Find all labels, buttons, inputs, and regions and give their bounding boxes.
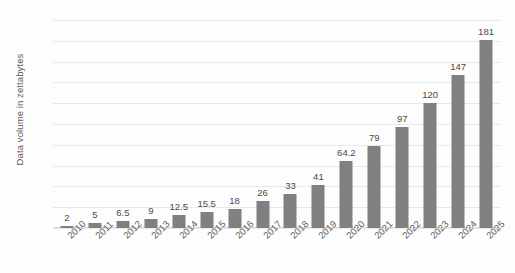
bar-value-label: 18	[229, 195, 240, 206]
y-axis-title: Data volume in zettabytes	[14, 22, 25, 198]
bar[interactable]	[424, 103, 437, 228]
bar-group[interactable]: 1472024	[444, 20, 472, 228]
bar[interactable]	[480, 40, 493, 228]
bar-group[interactable]: 6.52012	[109, 20, 137, 228]
bar[interactable]	[340, 161, 353, 228]
bar-value-label: 15.5	[197, 198, 216, 209]
bar-value-label: 33	[285, 180, 296, 191]
bar-group[interactable]: 182016	[221, 20, 249, 228]
bar[interactable]	[452, 75, 465, 228]
bar-value-label: 2	[64, 212, 69, 223]
bar-value-label: 26	[257, 187, 268, 198]
bar-group[interactable]: 332018	[277, 20, 305, 228]
bar-value-label: 64.2	[337, 147, 356, 158]
bar-value-label: 79	[369, 132, 380, 143]
bar-group[interactable]: 1812025	[472, 20, 500, 228]
bar[interactable]	[396, 127, 409, 228]
bar-value-label: 147	[450, 61, 466, 72]
bar-group[interactable]: 792021	[360, 20, 388, 228]
bar-chart: Data volume in zettabytes 20018016014012…	[0, 0, 515, 273]
bar-value-label: 41	[313, 171, 324, 182]
bar-value-label: 120	[422, 89, 438, 100]
bar-value-label: 6.5	[116, 207, 129, 218]
bar-group[interactable]: 92013	[137, 20, 165, 228]
bar-value-label: 12.5	[169, 201, 188, 212]
bar[interactable]	[256, 201, 269, 228]
bar[interactable]	[368, 146, 381, 228]
bar-value-label: 5	[92, 209, 97, 220]
bar[interactable]	[284, 194, 297, 228]
bar-group[interactable]: 15.52015	[193, 20, 221, 228]
bar-group[interactable]: 412019	[304, 20, 332, 228]
bar-group[interactable]: 12.52014	[165, 20, 193, 228]
plot-area: 20018016014012010080604020022010520116.5…	[53, 20, 500, 228]
bar[interactable]	[312, 185, 325, 228]
bar-value-label: 9	[148, 205, 153, 216]
bar-group[interactable]: 262017	[249, 20, 277, 228]
bar-value-label: 97	[397, 113, 408, 124]
bar-group[interactable]: 972022	[388, 20, 416, 228]
bar-group[interactable]: 22010	[53, 20, 81, 228]
bar-value-label: 181	[478, 26, 494, 37]
bar-group[interactable]: 1202023	[416, 20, 444, 228]
bar-group[interactable]: 64.22020	[332, 20, 360, 228]
bar-group[interactable]: 52011	[81, 20, 109, 228]
